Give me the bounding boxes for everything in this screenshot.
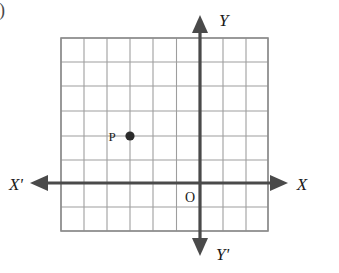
point-p-label: P <box>108 129 115 144</box>
x-negative-axis-label: X' <box>8 175 23 194</box>
y-positive-arrowhead-icon <box>192 15 208 33</box>
grid-background <box>61 38 268 231</box>
y-negative-axis-label: Y' <box>216 245 229 264</box>
y-negative-arrowhead-icon <box>192 238 208 256</box>
x-negative-arrowhead-icon <box>30 175 48 191</box>
y-positive-axis-label: Y <box>219 11 230 30</box>
coordinate-plane-svg: P O X' X Y Y' ) <box>0 0 339 273</box>
coordinate-plane-figure: P O X' X Y Y' ) <box>0 0 339 273</box>
corner-mark: ) <box>0 0 5 21</box>
origin-label: O <box>185 190 195 205</box>
x-positive-arrowhead-icon <box>270 175 288 191</box>
x-positive-axis-label: X <box>296 175 308 194</box>
point-p-dot <box>125 131 134 140</box>
